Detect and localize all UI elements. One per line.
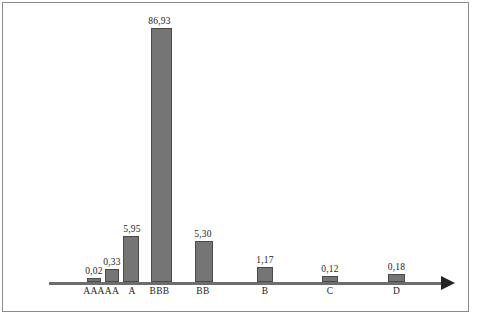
category-label-c: C [314,286,346,296]
bar-b [257,267,273,282]
bar-d [388,274,405,282]
chart-screenshot: 0,02AAA0,33AA5,95A86,93BBB5,30BB1,17B0,1… [0,0,486,318]
x-axis-arrow-icon [441,276,455,290]
bar-value-label-bbb: 86,93 [141,16,178,26]
bar-value-label-d: 0,18 [380,262,413,272]
x-axis-line [49,282,445,285]
bar-value-label-bb: 5,30 [186,229,220,239]
bar-c [322,276,338,282]
bar-chart-plot-area: 0,02AAA0,33AA5,95A86,93BBB5,30BB1,17B0,1… [0,0,486,318]
bar-aaa [87,278,101,282]
bar-bb [195,241,213,282]
category-label-b: B [249,286,281,296]
bar-value-label-c: 0,12 [314,264,346,274]
category-label-bb: BB [186,286,220,296]
category-label-bbb: BBB [141,286,178,296]
bar-bbb [151,28,172,282]
bar-value-label-a: 5,95 [116,224,148,234]
bar-value-label-b: 1,17 [249,255,281,265]
bar-a [123,236,139,282]
category-label-d: D [380,286,413,296]
bar-aa [105,269,119,282]
